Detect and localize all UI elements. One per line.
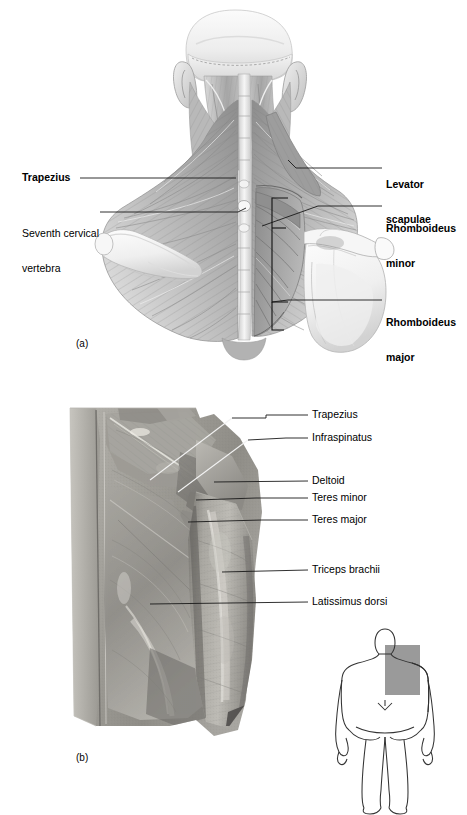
label-teres-minor-b: Teres minor xyxy=(312,492,367,504)
c7-spinous-process xyxy=(238,201,251,212)
panel-b-id: (b) xyxy=(76,752,88,763)
label-rhomboideus-major: Rhomboideus major xyxy=(386,294,456,375)
label-deltoid-b: Deltoid xyxy=(312,475,345,487)
anatomy-figure: Trapezius Seventh cervical vertebra Leva… xyxy=(0,0,467,815)
occiput-and-scalp xyxy=(186,10,292,83)
figure-canvas xyxy=(0,0,467,815)
label-teres-major-b: Teres major xyxy=(312,514,367,526)
lower-back-muscles xyxy=(222,338,266,360)
label-seventh-cervical-vertebra: Seventh cervical vertebra xyxy=(22,205,99,286)
label-infraspinatus-b: Infraspinatus xyxy=(312,432,372,444)
label-rhomboideus-minor: Rhomboideus minor xyxy=(386,200,456,281)
label-triceps-brachii-b: Triceps brachii xyxy=(312,564,380,576)
label-trapezius-b: Trapezius xyxy=(312,409,358,421)
panel-a-id: (a) xyxy=(76,338,88,349)
label-latissimus-dorsi-b: Latissimus dorsi xyxy=(312,596,387,608)
panel-a-illustration xyxy=(80,10,394,360)
leader-infraspinatus-b xyxy=(248,438,308,440)
vertebral-column xyxy=(238,74,253,340)
trapezius-left xyxy=(102,100,238,341)
leader-trapezius-b xyxy=(232,415,308,418)
body-orientation-diagram xyxy=(336,629,435,814)
label-trapezius-a: Trapezius xyxy=(22,172,70,184)
highlight-region xyxy=(385,645,420,695)
scapula-right-bone xyxy=(304,229,394,353)
